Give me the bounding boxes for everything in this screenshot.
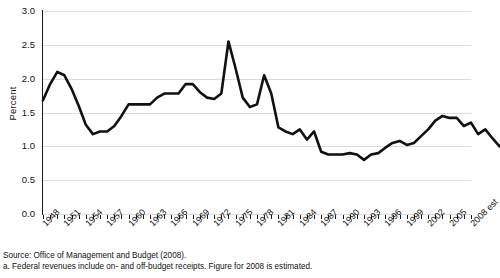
y-tick-label: 0.0 [0, 209, 35, 219]
y-tick-label: 0.5 [0, 175, 35, 185]
footnote-source: Source: Office of Management and Budget … [3, 250, 473, 261]
y-tick-label: 3.0 [0, 6, 35, 16]
footnotes: Source: Office of Management and Budget … [3, 250, 473, 272]
y-tick-label: 2.5 [0, 40, 35, 50]
series-line [43, 11, 471, 214]
y-tick-label: 2.0 [0, 74, 35, 84]
plot-area [43, 11, 471, 214]
y-tick-label: 1.5 [0, 108, 35, 118]
x-tick-label: 2008 est [469, 198, 500, 229]
y-tick-label: 1.0 [0, 141, 35, 151]
footnote-note-a: a. Federal revenues include on- and off-… [3, 261, 473, 272]
